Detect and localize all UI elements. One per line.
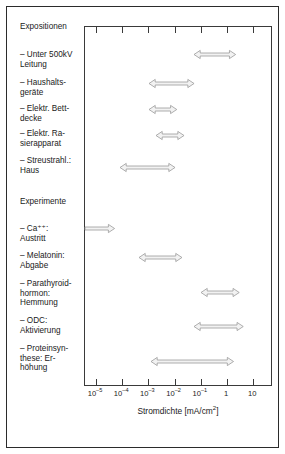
- range-arrow-melatonin-abgabe: [139, 253, 182, 262]
- row-label-elektr-bettdecke: – Elektr. Bett- decke: [20, 104, 88, 123]
- row-label-elektr-rasierapparat: – Elektr. Ra- sierapparat: [20, 129, 88, 148]
- x-tick-top-1: [122, 27, 123, 33]
- range-arrow-parathyroidhormon: [201, 288, 239, 297]
- x-tick-label-2: 10–3: [140, 389, 155, 398]
- range-arrow-ca-austritt: [85, 224, 115, 233]
- x-tick-bottom-1: [122, 379, 123, 385]
- x-tick-label-4: 10–1: [192, 389, 207, 398]
- row-label-streustrahl-haus: – Streustrahl.: Haus: [20, 156, 88, 175]
- range-arrow-streustrahl-haus: [120, 163, 175, 172]
- x-tick-top-4: [201, 27, 202, 33]
- group-title-expositionen: Expositionen: [20, 22, 67, 32]
- x-tick-top-5: [227, 27, 228, 33]
- x-tick-bottom-2: [148, 379, 149, 385]
- x-tick-label-0: 10–5: [88, 389, 103, 398]
- row-label-melatonin-abgabe: – Melatonin: Abgabe: [20, 251, 88, 270]
- range-arrow-odc-aktivierung: [194, 322, 243, 331]
- row-label-parathyroidhormon: – Parathyroid- hormon: Hemmung: [20, 279, 88, 308]
- row-label-odc-aktivierung: – ODC: Aktivierung: [20, 316, 88, 335]
- x-tick-top-6: [253, 27, 254, 33]
- x-axis-label-text: Stromdichte [mA/cm: [137, 406, 212, 416]
- range-arrow-elektr-rasierapparat: [156, 131, 184, 140]
- x-tick-bottom-4: [201, 379, 202, 385]
- range-arrow-elektr-bettdecke: [149, 105, 177, 114]
- row-label-haushaltsgeraete: – Haushalts- geräte: [20, 78, 88, 97]
- x-tick-label-1: 10–4: [114, 389, 129, 398]
- x-axis-label-tail: ]: [216, 406, 218, 416]
- row-label-unter-500kv-leitung: – Unter 500kV Leitung: [20, 50, 88, 69]
- x-tick-top-0: [96, 27, 97, 33]
- x-tick-bottom-5: [227, 379, 228, 385]
- range-arrow-proteinsynthese: [151, 357, 234, 366]
- range-arrow-haushaltsgeraete: [149, 79, 194, 88]
- x-tick-label-6: 10: [248, 389, 256, 398]
- x-tick-bottom-3: [175, 379, 176, 385]
- figure-root: Expositionen – Unter 500kV Leitung – Hau…: [0, 0, 285, 454]
- x-tick-bottom-6: [253, 379, 254, 385]
- range-arrow-unter-500kv-leitung: [194, 50, 236, 59]
- x-tick-label-3: 10–2: [166, 389, 181, 398]
- row-label-ca-austritt: – Ca⁺⁺: Austritt: [20, 224, 88, 243]
- x-tick-label-row: 10–510–410–310–210–1110: [84, 389, 272, 403]
- x-tick-label-5: 1: [224, 389, 228, 398]
- x-tick-top-2: [148, 27, 149, 33]
- x-axis-label: Stromdichte [mA/cm2]: [84, 406, 272, 417]
- x-tick-top-3: [175, 27, 176, 33]
- group-title-experimente: Experimente: [20, 197, 66, 207]
- plot-area: [84, 26, 272, 386]
- row-label-proteinsynthese: – Proteinsyn- these: Er- höhung: [20, 344, 88, 373]
- x-tick-bottom-0: [96, 379, 97, 385]
